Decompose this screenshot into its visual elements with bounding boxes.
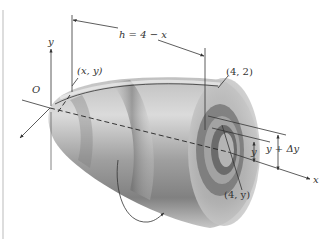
diagram: h = 4 − x y O (x, y) (4, 2) (4, y) y y +… <box>0 0 333 239</box>
label-point-4y: (4, y) <box>224 189 250 200</box>
z-axis-front <box>20 108 50 138</box>
z-axis <box>22 100 50 108</box>
h-dimension-left <box>73 20 118 28</box>
label-origin: O <box>32 84 40 95</box>
label-y-axis: y <box>47 36 54 47</box>
h-dimension-right <box>158 40 204 56</box>
label-height: h = 4 − x <box>119 29 167 40</box>
leader-xy <box>72 78 78 86</box>
label-x-axis: x <box>313 174 319 185</box>
label-radius-y-dy: y + Δy <box>265 143 300 154</box>
label-point-42: (4, 2) <box>226 66 253 77</box>
label-radius-y: y <box>250 146 257 157</box>
label-point-xy: (x, y) <box>77 65 103 76</box>
